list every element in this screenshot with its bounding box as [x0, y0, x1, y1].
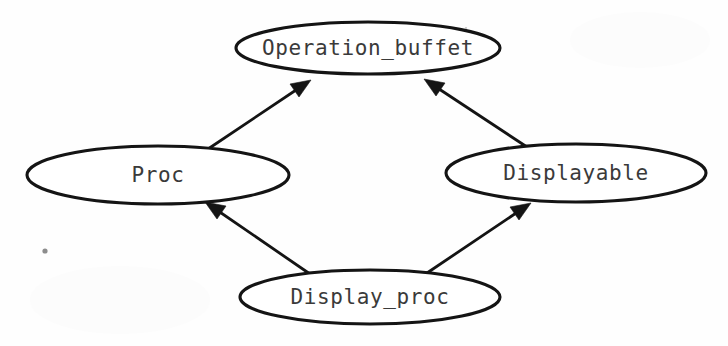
edge-display-proc-to-proc	[205, 202, 310, 274]
scan-speck	[42, 248, 47, 253]
node-label-display-proc: Display_proc	[291, 285, 450, 309]
node-label-displayable: Displayable	[503, 161, 649, 185]
diagram-canvas: Operation_buffet Proc Displayable Displa…	[0, 0, 728, 346]
edge-displayable-to-operation-buffet	[424, 79, 527, 147]
node-displayable[interactable]: Displayable	[446, 144, 706, 202]
edge-proc-to-operation-buffet	[208, 80, 311, 149]
class-hierarchy-diagram: Operation_buffet Proc Displayable Displa…	[0, 0, 728, 346]
node-display-proc[interactable]: Display_proc	[240, 270, 500, 324]
node-operation-buffet[interactable]: Operation_buffet	[236, 22, 500, 74]
node-proc[interactable]: Proc	[27, 146, 289, 204]
node-label-operation-buffet: Operation_buffet	[262, 36, 474, 60]
node-label-proc: Proc	[132, 163, 185, 187]
scan-artifact	[570, 12, 710, 68]
scan-artifact	[30, 266, 210, 334]
scan-speck	[465, 27, 467, 29]
edge-display-proc-to-displayable	[427, 203, 531, 273]
